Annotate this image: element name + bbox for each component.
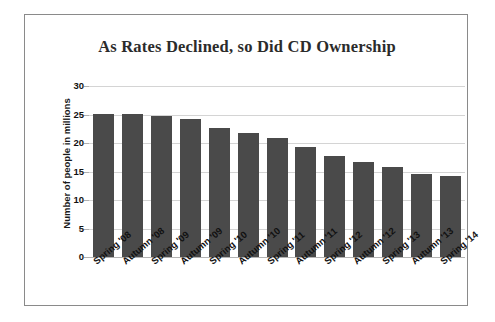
y-tick-label: 5 [44, 224, 84, 234]
y-tick-label: 20 [44, 138, 84, 148]
y-tick-label: 0 [44, 252, 84, 262]
y-tick-label: 30 [44, 81, 84, 91]
y-tick-label: 15 [44, 167, 84, 177]
y-tick-label: 10 [44, 195, 84, 205]
chart-frame: As Rates Declined, so Did CD Ownership N… [24, 14, 468, 306]
chart-title: As Rates Declined, so Did CD Ownership [25, 37, 469, 57]
y-tick-label: 25 [44, 110, 84, 120]
y-axis-title: Number of people in millions [61, 84, 72, 244]
bar [93, 114, 114, 257]
chart-page: As Rates Declined, so Did CD Ownership N… [0, 0, 495, 322]
x-axis-ticks: Spring '08Autumn '08Spring '09Autumn '09… [89, 258, 479, 318]
